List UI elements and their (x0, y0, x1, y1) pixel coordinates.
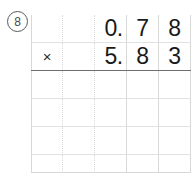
grid-cell[interactable] (159, 127, 191, 155)
grid-cell[interactable] (159, 71, 191, 99)
grid-cell[interactable] (159, 155, 191, 173)
grid-row: × 5. 8 3 (31, 43, 191, 71)
grid-cell[interactable] (31, 155, 63, 173)
grid-cell[interactable]: 5. (95, 43, 127, 71)
grid-cell[interactable] (63, 15, 95, 43)
cell-text: 8 (136, 45, 148, 68)
cell-text: 5. (104, 45, 122, 68)
grid-cell[interactable] (63, 43, 95, 71)
calculation-grid: 0. 7 8 × 5. 8 3 (31, 15, 191, 173)
cell-text: 3 (168, 45, 180, 68)
grid-cell[interactable] (31, 15, 63, 43)
grid-row (31, 127, 191, 155)
grid-row (31, 71, 191, 99)
grid-cell[interactable]: 7 (127, 15, 159, 43)
grid-cell[interactable] (127, 71, 159, 99)
multiply-icon: × (43, 49, 51, 64)
grid-cell[interactable] (127, 155, 159, 173)
grid-cell[interactable] (95, 155, 127, 173)
grid-cell[interactable] (127, 127, 159, 155)
answer-separator-rule (31, 70, 191, 71)
grid-cell[interactable] (95, 127, 127, 155)
grid-cell[interactable]: 0. (95, 15, 127, 43)
grid-row (31, 99, 191, 127)
grid-cell[interactable] (63, 155, 95, 173)
grid-cell[interactable]: 8 (127, 43, 159, 71)
grid-cell[interactable] (63, 127, 95, 155)
grid-cell-operator[interactable]: × (31, 43, 63, 71)
cell-text: 8 (168, 17, 180, 40)
grid-cell[interactable] (95, 99, 127, 127)
grid-row (31, 155, 191, 173)
worksheet-problem: 8 0. 7 8 × 5. 8 3 (0, 0, 196, 180)
grid-row: 0. 7 8 (31, 15, 191, 43)
cell-text: 0. (104, 17, 122, 40)
grid-cell[interactable] (31, 71, 63, 99)
grid-cell[interactable] (31, 99, 63, 127)
problem-number-badge: 8 (7, 11, 28, 32)
grid-cell[interactable] (63, 99, 95, 127)
grid-cell[interactable]: 8 (159, 15, 191, 43)
grid-cell[interactable] (127, 99, 159, 127)
grid-cell[interactable] (63, 71, 95, 99)
grid-cell[interactable]: 3 (159, 43, 191, 71)
grid-cell[interactable] (159, 99, 191, 127)
problem-number-label: 8 (14, 16, 21, 28)
grid-cell[interactable] (31, 127, 63, 155)
cell-text: 7 (136, 17, 148, 40)
grid-cell[interactable] (95, 71, 127, 99)
